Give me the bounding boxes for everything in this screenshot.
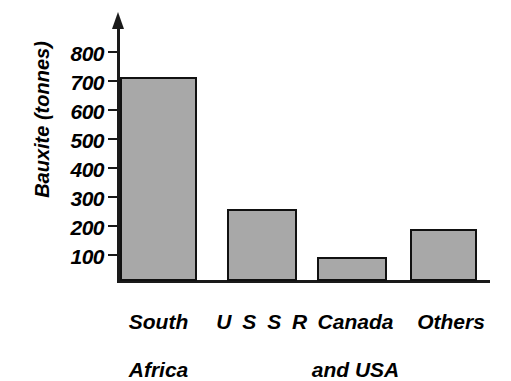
- x-label-south-africa-line1: South: [108, 310, 209, 334]
- y-tick-label-600: 600: [46, 101, 104, 122]
- y-tick-label-200: 200: [46, 217, 104, 238]
- x-label-ussr: U S S R: [213, 286, 313, 358]
- x-label-canada-and-usa: Canada and USA: [303, 286, 408, 381]
- y-tick-label-500: 500: [46, 130, 104, 151]
- y-tick-label-300: 300: [46, 188, 104, 209]
- y-tick-label-700: 700: [46, 72, 104, 93]
- bar-south-africa: [120, 77, 197, 281]
- x-label-canada-and-usa-line1: Canada: [303, 310, 408, 334]
- x-label-canada-and-usa-line2: and USA: [303, 358, 408, 381]
- bar-canada-and-usa: [317, 257, 387, 281]
- y-axis-tick-labels: 800 700 600 500 400 300 200 100: [46, 0, 104, 350]
- x-label-south-africa-line2: Africa: [108, 358, 209, 381]
- x-label-others-line1: Others: [406, 310, 496, 334]
- bar-others: [410, 229, 477, 281]
- x-label-others: Others: [406, 286, 496, 358]
- x-label-ussr-line1: U S S R: [213, 310, 313, 334]
- bar-ussr: [227, 209, 297, 281]
- y-tick-label-800: 800: [46, 43, 104, 64]
- x-label-south-africa: South Africa: [108, 286, 209, 381]
- y-tick-label-100: 100: [46, 246, 104, 267]
- y-tick-label-400: 400: [46, 159, 104, 180]
